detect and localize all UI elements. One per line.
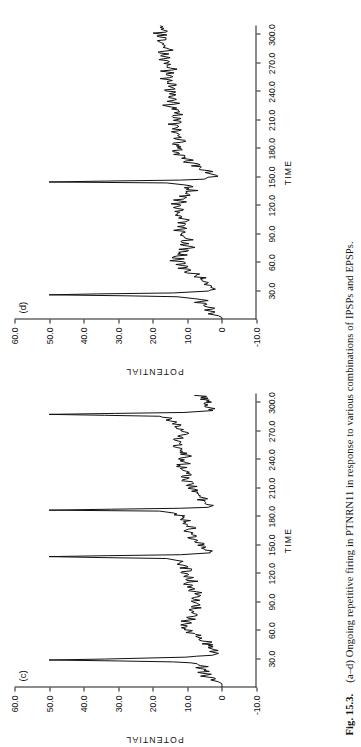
y-tick <box>14 319 15 323</box>
x-tick <box>256 629 260 630</box>
x-tick <box>256 458 260 459</box>
figure-caption-text: (a–d) Ongoing repetitive firing in PTNRN… <box>343 241 354 682</box>
y-tick <box>83 319 84 323</box>
x-tick <box>256 544 260 545</box>
waveform-trace-c <box>14 393 256 687</box>
y-tick-label: 60.0 <box>9 695 19 739</box>
y-tick <box>118 687 119 691</box>
x-tick <box>256 176 260 177</box>
x-tick <box>256 147 260 148</box>
y-tick-label: 30.0 <box>113 695 123 739</box>
x-tick-label: 240.0 <box>266 81 276 103</box>
y-tick-label: 20.0 <box>147 327 157 371</box>
x-tick <box>256 515 260 516</box>
x-tick <box>256 401 260 402</box>
x-tick <box>256 233 260 234</box>
y-tick-label: -10.0 <box>251 327 261 371</box>
x-tick <box>256 572 260 573</box>
figure-page: (c) TIME POTENTIAL 30.060.090.0120.0150.… <box>0 0 361 747</box>
plot-area-c <box>14 393 256 687</box>
x-tick-label: 210.0 <box>266 477 276 499</box>
x-tick-label: 120.0 <box>266 194 276 216</box>
waveform-trace-d <box>14 25 256 319</box>
x-tick-label: 300.0 <box>266 24 276 46</box>
figure-caption: Fig. 15.3.(a–d) Ongoing repetitive firin… <box>342 9 355 735</box>
y-tick-label: -10.0 <box>251 695 261 739</box>
y-tick-label: 30.0 <box>113 327 123 371</box>
y-tick <box>256 687 257 691</box>
x-tick-label: 180.0 <box>266 138 276 160</box>
y-tick <box>256 319 257 323</box>
y-tick-label: 60.0 <box>9 327 19 371</box>
x-tick <box>256 204 260 205</box>
y-tick-label: 0 <box>216 327 226 371</box>
x-tick-label: 300.0 <box>266 392 276 414</box>
x-tick <box>256 33 260 34</box>
y-tick-label: 0 <box>216 695 226 739</box>
y-tick <box>14 687 15 691</box>
figure-number: Fig. 15.3. <box>343 693 354 735</box>
chart-panel-d: (d) TIME POTENTIAL 30.060.090.0120.0150.… <box>4 19 304 375</box>
y-tick <box>49 319 50 323</box>
x-tick <box>256 658 260 659</box>
y-tick-label: 20.0 <box>147 695 157 739</box>
x-tick-label: 90.0 <box>266 225 276 242</box>
plot-area-d <box>14 25 256 319</box>
x-tick-label: 120.0 <box>266 562 276 584</box>
x-tick-label: 270.0 <box>266 52 276 74</box>
y-tick <box>152 687 153 691</box>
x-tick-label: 180.0 <box>266 506 276 528</box>
y-tick <box>118 319 119 323</box>
x-tick <box>256 487 260 488</box>
y-tick-label: 10.0 <box>182 695 192 739</box>
x-tick <box>256 290 260 291</box>
y-tick <box>187 319 188 323</box>
x-tick <box>256 261 260 262</box>
y-tick-label: 10.0 <box>182 327 192 371</box>
x-tick-label: 270.0 <box>266 420 276 442</box>
y-tick-label: 40.0 <box>78 695 88 739</box>
y-tick-label: 40.0 <box>78 327 88 371</box>
potential-waveform <box>49 395 222 687</box>
x-tick-label: 210.0 <box>266 109 276 131</box>
x-tick-label: 60.0 <box>266 254 276 271</box>
x-tick-label: 240.0 <box>266 449 276 471</box>
y-tick <box>49 687 50 691</box>
y-tick <box>83 687 84 691</box>
potential-waveform <box>49 25 222 319</box>
x-tick <box>256 601 260 602</box>
x-axis-title-d: TIME <box>282 25 292 319</box>
x-tick <box>256 90 260 91</box>
y-tick-label: 50.0 <box>44 695 54 739</box>
y-tick <box>221 687 222 691</box>
x-tick-label: 150.0 <box>266 534 276 556</box>
y-tick <box>187 687 188 691</box>
y-tick-label: 50.0 <box>44 327 54 371</box>
x-tick <box>256 119 260 120</box>
rotated-page: (c) TIME POTENTIAL 30.060.090.0120.0150.… <box>0 0 361 747</box>
y-tick <box>221 319 222 323</box>
y-tick <box>152 319 153 323</box>
x-axis-title-c: TIME <box>282 393 292 687</box>
x-tick-label: 30.0 <box>266 650 276 667</box>
x-tick-label: 60.0 <box>266 622 276 639</box>
x-tick-label: 90.0 <box>266 593 276 610</box>
x-tick-label: 150.0 <box>266 166 276 188</box>
x-tick-label: 30.0 <box>266 282 276 299</box>
x-tick <box>256 62 260 63</box>
x-tick <box>256 430 260 431</box>
chart-panel-c: (c) TIME POTENTIAL 30.060.090.0120.0150.… <box>4 387 304 743</box>
